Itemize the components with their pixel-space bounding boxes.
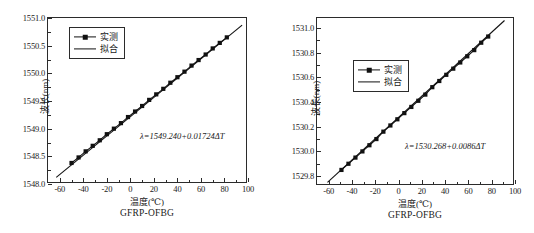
legend-marker-icon — [358, 65, 380, 75]
data-point-marker — [346, 162, 350, 166]
y-tick — [317, 53, 321, 54]
x-tick-minor — [189, 180, 190, 183]
y-tick-label: 1530.2 — [292, 122, 314, 131]
x-tick-minor — [236, 180, 237, 183]
x-axis-title-left: 温度(℃) — [48, 195, 246, 208]
fit-equation-right: λ=1530.268+0.0086ΔT — [405, 141, 485, 151]
x-tick-label: 20 — [418, 187, 426, 196]
data-point-marker — [140, 104, 144, 108]
chart-panel-right: 波长(nm) 温度(℃) GFRP-OFBG λ=1530.268+0.0086… — [267, 0, 534, 233]
data-point-marker — [161, 87, 165, 91]
x-tick — [329, 180, 330, 184]
series-canvas-right — [317, 18, 515, 186]
x-tick-label: 80 — [220, 185, 228, 194]
data-point-marker — [360, 149, 364, 153]
y-tick-minor — [317, 114, 320, 115]
x-tick — [224, 178, 225, 182]
x-tick-label: 20 — [150, 185, 158, 194]
data-point-marker — [339, 168, 343, 172]
data-point-marker — [154, 92, 158, 96]
figure-container: 波长(nm) 温度(℃) GFRP-OFBG λ=1549.240+0.0172… — [0, 0, 534, 233]
data-point-marker — [225, 35, 229, 39]
y-tick-minor — [317, 65, 320, 66]
x-tick — [154, 178, 155, 182]
legend-line-icon — [74, 44, 96, 54]
y-tick — [48, 18, 52, 19]
data-point-marker — [196, 58, 200, 62]
y-tick — [48, 129, 52, 130]
data-point-marker — [204, 52, 208, 56]
data-point-marker — [168, 81, 172, 85]
y-tick — [317, 176, 321, 177]
x-tick-label: -60 — [323, 187, 334, 196]
x-tick-label: 40 — [173, 185, 181, 194]
y-tick-minor — [48, 32, 51, 33]
data-point-marker — [395, 117, 399, 121]
x-tick-minor — [166, 180, 167, 183]
panel-caption-left: GFRP-OFBG — [48, 208, 246, 218]
data-point-marker — [133, 109, 137, 113]
data-point-marker — [451, 67, 455, 71]
x-tick — [177, 178, 178, 182]
x-tick-label: 100 — [242, 185, 254, 194]
y-tick-minor — [317, 164, 320, 165]
x-tick-minor — [387, 182, 388, 185]
x-tick — [399, 180, 400, 184]
y-tick-minor — [48, 143, 51, 144]
data-point-marker — [430, 85, 434, 89]
fit-equation-left: λ=1549.240+0.01724ΔT — [140, 131, 224, 141]
y-tick-label: 1550.0 — [23, 69, 45, 78]
y-tick — [48, 46, 52, 47]
data-point-marker — [76, 155, 80, 159]
x-tick-minor — [457, 182, 458, 185]
data-point-marker — [98, 138, 102, 142]
data-point-marker — [444, 73, 448, 77]
x-tick — [60, 178, 61, 182]
y-tick-label: 1530.0 — [292, 147, 314, 156]
legend-left: 实测 拟合 — [69, 27, 125, 59]
y-tick-label: 1530.6 — [292, 73, 314, 82]
x-tick-label: 60 — [197, 185, 205, 194]
data-point-marker — [189, 63, 193, 67]
data-point-marker — [458, 60, 462, 64]
x-tick-label: -40 — [78, 185, 89, 194]
y-tick-label: 1548.0 — [23, 180, 45, 189]
legend-entry-fit-right: 拟合 — [358, 76, 402, 88]
x-tick-minor — [410, 182, 411, 185]
x-tick-label: -40 — [347, 187, 358, 196]
x-tick-label: 100 — [509, 187, 521, 196]
x-tick — [248, 178, 249, 182]
data-point-marker — [472, 48, 476, 52]
y-tick-label: 1548.5 — [23, 152, 45, 161]
data-point-marker — [409, 105, 413, 109]
y-tick — [48, 101, 52, 102]
y-tick-label: 1549.0 — [23, 124, 45, 133]
chart-panel-left: 波长(nm) 温度(℃) GFRP-OFBG λ=1549.240+0.0172… — [0, 0, 267, 233]
x-tick — [375, 180, 376, 184]
y-tick-minor — [317, 90, 320, 91]
y-tick-minor — [48, 115, 51, 116]
x-tick-minor — [142, 180, 143, 183]
x-tick-label: -20 — [101, 185, 112, 194]
x-tick — [130, 178, 131, 182]
x-tick-minor — [213, 180, 214, 183]
y-tick — [317, 127, 321, 128]
y-tick — [48, 156, 52, 157]
y-tick — [317, 151, 321, 152]
data-point-marker — [423, 92, 427, 96]
x-tick-minor — [364, 182, 365, 185]
legend-label-measured: 实测 — [384, 66, 402, 75]
data-point-marker — [218, 41, 222, 45]
legend-marker-icon — [74, 32, 96, 42]
y-tick-label: 1549.5 — [23, 97, 45, 106]
x-tick — [422, 180, 423, 184]
x-axis-title-right: 温度(℃) — [317, 197, 513, 210]
data-point-marker — [175, 75, 179, 79]
legend-label-measured: 实测 — [100, 33, 118, 42]
y-tick-label: 1550.5 — [23, 41, 45, 50]
y-tick-label: 1530.4 — [292, 98, 314, 107]
plot-area-left: 波长(nm) 温度(℃) GFRP-OFBG λ=1549.240+0.0172… — [47, 17, 247, 183]
data-point-marker — [486, 34, 490, 38]
data-point-marker — [374, 137, 378, 141]
x-tick-minor — [503, 182, 504, 185]
